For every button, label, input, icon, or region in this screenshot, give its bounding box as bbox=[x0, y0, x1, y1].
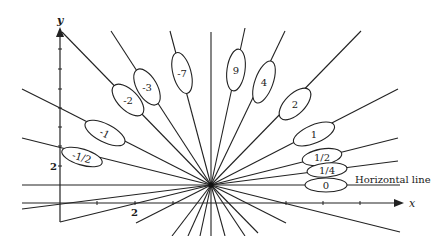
svg-text:2: 2 bbox=[292, 99, 298, 110]
axes: y x 2 2 bbox=[22, 14, 416, 222]
x-tick-label-2: 2 bbox=[131, 207, 138, 218]
slope-label-9: 9 bbox=[224, 48, 248, 92]
svg-text:-7: -7 bbox=[177, 68, 187, 79]
y-axis-arrow-icon bbox=[56, 27, 64, 37]
line-ext bbox=[22, 185, 211, 209]
slope-label-4: 4 bbox=[248, 58, 280, 106]
slope-label-neg-half: -1/2 bbox=[60, 143, 105, 171]
y-axis-label: y bbox=[56, 14, 65, 27]
slope-label-1: 1 bbox=[290, 117, 338, 151]
line-slope-neg-1 bbox=[60, 108, 211, 185]
svg-text:-2: -2 bbox=[123, 95, 133, 106]
line-slope-neg-1-upper bbox=[22, 89, 60, 108]
x-axis-label: x bbox=[409, 197, 416, 210]
line-ext bbox=[211, 185, 286, 223]
svg-text:4: 4 bbox=[261, 77, 267, 88]
slope-labels: -1/2 -1 -2 -3 -7 9 4 2 bbox=[60, 48, 348, 192]
slope-label-neg-1: -1 bbox=[81, 115, 128, 151]
svg-text:9: 9 bbox=[233, 65, 239, 76]
slope-label-neg-7: -7 bbox=[168, 50, 196, 95]
svg-text:-3: -3 bbox=[142, 82, 152, 93]
x-axis-arrow-icon bbox=[394, 199, 404, 207]
horizontal-line-annotation: Horizontal line bbox=[355, 174, 431, 185]
svg-text:0: 0 bbox=[323, 180, 329, 191]
line-ext bbox=[211, 185, 400, 232]
slope-label-2: 2 bbox=[274, 83, 316, 125]
svg-text:1/4: 1/4 bbox=[319, 165, 335, 176]
line-slope-4 bbox=[211, 31, 285, 185]
svg-text:1/2: 1/2 bbox=[314, 152, 330, 163]
svg-text:1: 1 bbox=[311, 129, 317, 140]
center-point bbox=[209, 183, 214, 188]
slope-label-0: 0 bbox=[305, 178, 347, 192]
y-tick-label-2: 2 bbox=[50, 161, 57, 172]
line-family bbox=[22, 28, 400, 236]
slope-field-diagram: y x 2 2 -1/2 -1 -2 -3 -7 9 bbox=[0, 0, 440, 236]
